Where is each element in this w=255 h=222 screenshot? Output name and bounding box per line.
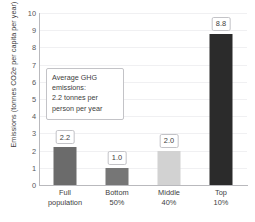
annotation-line: person per year [52,104,118,114]
y-tick-label: 3 [22,129,36,138]
x-tick-label-line: 50% [87,198,147,208]
bar[interactable] [54,147,77,185]
x-tick-label-line: Top [191,188,251,198]
x-tick-label-line: Middle [139,188,199,198]
emissions-bar-chart: Emissions (tonnes CO2e per capita per ye… [0,0,255,222]
bar[interactable] [210,34,233,185]
y-axis-line [39,13,40,186]
bar-value-label: 8.8 [212,17,231,31]
bar-value-label: 2.2 [56,130,75,144]
bar-group-middle-40: 2.0 [143,13,195,185]
y-tick-label: 9 [22,26,36,35]
y-axis-title: Emissions (tonnes CO2e per capita per ye… [9,0,18,160]
y-tick-label: 7 [22,60,36,69]
y-tick-label: 8 [22,43,36,52]
bar-group-top-10: 8.8 [195,13,247,185]
x-axis-tick-labels: Full population Bottom 50% Middle 40% To… [39,188,247,220]
bar[interactable] [106,168,129,185]
y-tick-label: 4 [22,112,36,121]
x-tick-label-top-10: Top 10% [191,188,251,207]
x-tick-label-line: Bottom [87,188,147,198]
x-axis-line [39,185,248,186]
y-tick-label: 1 [22,163,36,172]
x-tick-label-line: Full [35,188,95,198]
y-tick-label: 0 [22,181,36,190]
x-tick-label-line: 10% [191,198,251,208]
average-ghg-emissions-note: Average GHG emissions: 2.2 tonnes per pe… [46,68,124,120]
x-tick-label-bottom-50: Bottom 50% [87,188,147,207]
x-tick-label-line: 40% [139,198,199,208]
x-tick-label-full-population: Full population [35,188,95,207]
x-tick-label-middle-40: Middle 40% [139,188,199,207]
y-tick-label: 10 [22,9,36,18]
x-tick-label-line: population [35,198,95,208]
y-axis-tick-labels: 10 9 8 7 6 5 4 3 2 1 0 [19,13,36,185]
bar[interactable] [158,151,181,185]
annotation-line: Average GHG [52,73,118,83]
y-tick-label: 5 [22,95,36,104]
annotation-line: emissions: [52,83,118,93]
bar-value-label: 2.0 [160,134,179,148]
y-tick-label: 6 [22,77,36,86]
annotation-line: 2.2 tonnes per [52,93,118,103]
bar-value-label: 1.0 [108,151,127,165]
y-tick-label: 2 [22,146,36,155]
